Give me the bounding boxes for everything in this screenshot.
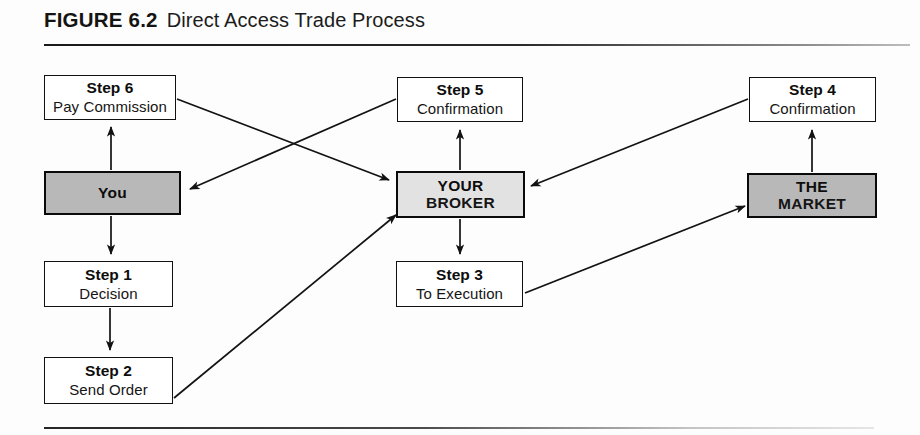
node-step5-line2: Confirmation	[417, 100, 503, 117]
node-you[interactable]: You	[44, 171, 181, 215]
node-step4[interactable]: Step 4 Confirmation	[749, 77, 876, 122]
node-you-line1: You	[98, 184, 127, 201]
node-step3-line2: To Execution	[416, 285, 503, 302]
node-market-line2: MARKET	[778, 195, 846, 213]
node-step6-line1: Step 6	[86, 79, 133, 96]
edge-step4-to-broker	[531, 99, 748, 186]
edge-step3-to-market	[525, 206, 745, 293]
node-broker-line2: BROKER	[426, 194, 495, 212]
node-step4-line2: Confirmation	[769, 100, 855, 117]
node-market-line1: THE	[796, 178, 828, 195]
node-step1-line2: Decision	[79, 285, 137, 302]
node-step1-line1: Step 1	[85, 266, 132, 283]
node-step2-line2: Send Order	[69, 381, 148, 398]
node-step6[interactable]: Step 6 Pay Commission	[44, 75, 176, 120]
node-step5[interactable]: Step 5 Confirmation	[397, 77, 523, 122]
node-step6-line2: Pay Commission	[53, 98, 167, 115]
edge-step6-to-broker	[177, 99, 389, 180]
node-the-market[interactable]: THE MARKET	[747, 173, 877, 218]
edge-step2-to-broker	[174, 215, 396, 398]
figure-page: FIGURE 6.2Direct Access Trade Process	[0, 0, 920, 435]
node-step4-line1: Step 4	[789, 81, 836, 98]
node-step5-line1: Step 5	[436, 81, 483, 98]
node-broker-line1: YOUR	[438, 177, 484, 194]
node-step3-line1: Step 3	[436, 266, 483, 283]
node-step3[interactable]: Step 3 To Execution	[396, 261, 523, 307]
node-step1[interactable]: Step 1 Decision	[44, 261, 173, 307]
edge-step5-to-you	[190, 99, 396, 189]
node-step2-line1: Step 2	[85, 362, 132, 379]
node-your-broker[interactable]: YOUR BROKER	[396, 171, 525, 218]
node-step2[interactable]: Step 2 Send Order	[44, 357, 173, 404]
